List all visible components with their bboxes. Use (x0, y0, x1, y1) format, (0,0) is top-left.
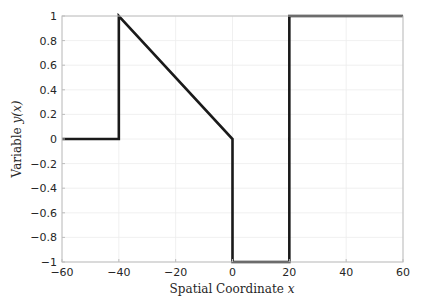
x-tick-label: 40 (339, 266, 353, 279)
x-tick-label: −40 (107, 266, 130, 279)
y-tick-label: 0.2 (40, 108, 58, 121)
y-tick-label: −1 (41, 256, 57, 269)
x-tick-label: 0 (229, 266, 236, 279)
y-tick-label: 0.8 (40, 35, 58, 48)
y-tick-label: 0.6 (40, 59, 58, 72)
x-tick-label: 60 (396, 266, 410, 279)
x-tick-label: −20 (164, 266, 187, 279)
y-tick-label: −0.6 (30, 207, 57, 220)
y-tick-label: 1 (50, 10, 57, 23)
x-axis-label: Spatial Coordinate x (170, 282, 295, 296)
y-tick-label: −0.8 (30, 231, 57, 244)
y-tick-label: 0.4 (40, 84, 58, 97)
x-tick-label: 20 (282, 266, 296, 279)
y-tick-label: −0.4 (30, 182, 57, 195)
y-axis-ticks: −1−0.8−0.6−0.4−0.200.20.40.60.81 (30, 10, 65, 269)
y-axis-label: Variable y(x) (10, 100, 24, 178)
y-tick-label: −0.2 (30, 158, 57, 171)
y-tick-label: 0 (50, 133, 57, 146)
line-chart: −60−40−200204060 −1−0.8−0.6−0.4−0.200.20… (0, 0, 421, 303)
